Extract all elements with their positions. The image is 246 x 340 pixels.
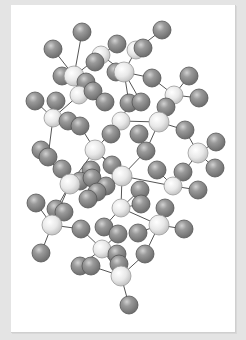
light-atom <box>149 112 169 132</box>
dark-atom <box>189 181 207 199</box>
light-atom <box>111 266 131 286</box>
dark-atom <box>134 39 152 57</box>
atoms-layer <box>26 21 225 314</box>
dark-atom <box>175 220 193 238</box>
dark-atom <box>132 195 150 213</box>
dark-atom <box>44 40 62 58</box>
dark-atom <box>130 125 148 143</box>
light-atom <box>164 177 182 195</box>
light-atom <box>60 174 80 194</box>
dark-atom <box>190 89 208 107</box>
dark-atom <box>26 92 44 110</box>
dark-atom <box>79 190 97 208</box>
dark-atom <box>32 244 50 262</box>
dark-atom <box>207 133 225 151</box>
dark-atom <box>27 194 45 212</box>
dark-atom <box>132 93 150 111</box>
dark-atom <box>86 53 104 71</box>
light-atom <box>42 215 62 235</box>
dark-atom <box>156 199 174 217</box>
dark-atom <box>71 117 89 135</box>
light-atom <box>85 140 105 160</box>
dark-atom <box>102 125 120 143</box>
dark-atom <box>206 159 224 177</box>
dark-atom <box>39 148 57 166</box>
dark-atom <box>180 67 198 85</box>
dark-atom <box>73 23 91 41</box>
molecule-illustration <box>0 0 246 340</box>
dark-atom <box>148 161 166 179</box>
dark-atom <box>129 224 147 242</box>
dark-atom <box>137 142 155 160</box>
dark-atom <box>120 296 138 314</box>
dark-atom <box>143 69 161 87</box>
light-atom <box>112 166 132 186</box>
dark-atom <box>72 220 90 238</box>
dark-atom <box>82 257 100 275</box>
dark-atom <box>136 245 154 263</box>
dark-atom <box>96 93 114 111</box>
light-atom <box>149 215 169 235</box>
dark-atom <box>153 21 171 39</box>
light-atom <box>114 62 134 82</box>
light-atom <box>112 199 130 217</box>
light-atom <box>188 143 208 163</box>
dark-atom <box>108 35 126 53</box>
dark-atom <box>109 225 127 243</box>
dark-atom <box>47 92 65 110</box>
dark-atom <box>176 121 194 139</box>
